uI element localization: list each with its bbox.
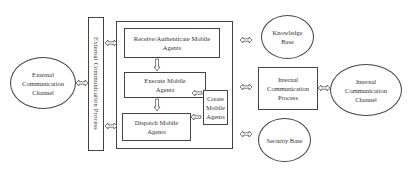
arrow-ext-channel <box>76 80 88 86</box>
connector-arrows <box>0 0 408 172</box>
